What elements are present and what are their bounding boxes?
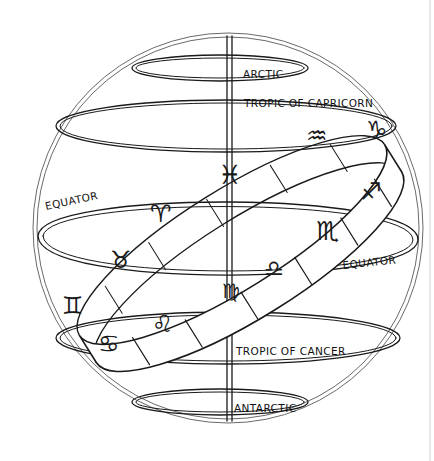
aries-sign: ♈ xyxy=(150,200,172,228)
pisces-sign: ♓ xyxy=(218,160,241,190)
cancer-sign: ♋ xyxy=(98,330,120,358)
tropic-of-cancer-label: TROPIC OF CANCER xyxy=(235,345,346,357)
leo-sign: ♌ xyxy=(152,310,174,338)
libra-sign: ♎ xyxy=(264,256,284,281)
scorpio-sign: ♏ xyxy=(316,216,339,246)
gemini-sign: ♊ xyxy=(62,292,84,320)
arctic-label: ARCTIC xyxy=(243,68,284,80)
capricorn-sign: ♑ xyxy=(366,116,388,144)
sagittarius-sign: ♐ xyxy=(360,178,382,206)
armillary-sphere-diagram: ♑ ♒ ♓ ♈ ♉ ♊ ♋ ♌ ♍ ♎ ♏ ♐ ARCTIC TROPIC OF… xyxy=(0,0,434,461)
virgo-sign: ♍ xyxy=(222,279,240,303)
aquarius-sign: ♒ xyxy=(306,122,328,150)
equator-left-label: EQUATOR xyxy=(44,189,99,212)
tropic-of-capricorn-label: TROPIC OF CAPRICORN xyxy=(243,97,373,109)
equator-right-label: EQUATOR xyxy=(342,253,397,271)
taurus-sign: ♉ xyxy=(110,246,132,274)
antarctic-label: ANTARCTIC xyxy=(234,402,296,414)
polar-axis xyxy=(227,36,232,421)
